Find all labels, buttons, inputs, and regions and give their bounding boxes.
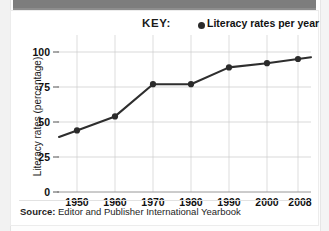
y-tick-label: 0: [44, 186, 50, 198]
y-tick-label: 100: [32, 46, 50, 58]
data-point: [295, 56, 301, 62]
footer-divider: [19, 200, 310, 201]
page-edge-left: [0, 0, 11, 231]
plot-area: Literacy rates (percentage): [11, 11, 318, 225]
y-tick-marks: [53, 52, 59, 192]
series-line-literacy: [59, 57, 311, 137]
y-tick-label: 50: [38, 116, 50, 128]
horizontal-gridlines: [57, 52, 311, 157]
x-tick-label: 2000: [255, 196, 279, 208]
data-point: [264, 60, 270, 66]
vertical-gridlines: [77, 35, 298, 192]
data-point: [150, 81, 156, 87]
chart-card: KEY: Literacy rates per year Literacy ra…: [11, 11, 318, 225]
data-point: [112, 113, 118, 119]
x-tick-label: 2008: [288, 196, 312, 208]
source-caption: Source: Editor and Publisher Internation…: [20, 206, 241, 217]
figure-root: KEY: Literacy rates per year Literacy ra…: [0, 0, 329, 231]
page-edge-right: [320, 0, 329, 231]
line-chart-svg: 100 75 50 25 0: [11, 11, 318, 225]
source-prefix: Source:: [20, 206, 55, 217]
y-tick-labels: 100 75 50 25 0: [32, 46, 50, 198]
y-tick-label: 75: [38, 81, 50, 93]
data-point: [188, 81, 194, 87]
y-tick-label: 25: [38, 151, 50, 163]
data-point: [74, 127, 80, 133]
source-text: Editor and Publisher International Yearb…: [55, 206, 240, 217]
data-point: [226, 64, 232, 70]
